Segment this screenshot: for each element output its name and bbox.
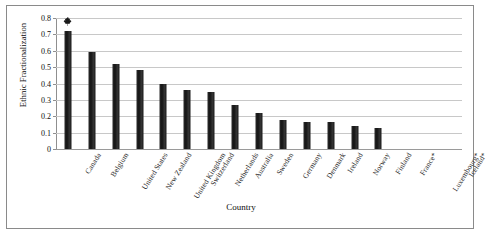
y-axis-tick-label: 0.6: [41, 46, 51, 55]
bar-slot: [366, 18, 390, 149]
bar-slot: [152, 18, 176, 149]
bar-slot: [390, 18, 414, 149]
bar[interactable]: [88, 52, 95, 149]
bar-slot: [56, 18, 80, 149]
gridline: [56, 149, 462, 150]
x-axis-label: Germany: [300, 151, 323, 180]
bar[interactable]: [208, 92, 215, 149]
bar-slot: [271, 18, 295, 149]
bar[interactable]: [232, 105, 239, 149]
bar-slot: [414, 18, 438, 149]
y-axis-tick-label: 0: [47, 145, 51, 154]
x-axis-title: Country: [7, 202, 475, 212]
bar[interactable]: [184, 90, 191, 149]
bar-slot: [128, 18, 152, 149]
y-axis-tick-label: 0.8: [41, 14, 51, 23]
bar-slot: [343, 18, 367, 149]
bar[interactable]: [160, 84, 167, 150]
x-axis-label: Denmark: [324, 151, 347, 180]
bar-slot: [104, 18, 128, 149]
bar[interactable]: [375, 128, 382, 149]
bar[interactable]: [351, 126, 358, 149]
y-axis-tick: [53, 149, 56, 150]
y-axis-tick-label: 0.1: [41, 128, 51, 137]
y-axis-tick-label: 0.5: [41, 63, 51, 72]
bar-slot: [295, 18, 319, 149]
bar-slot: [247, 18, 271, 149]
bar[interactable]: [255, 113, 262, 149]
bar-slot: [438, 18, 462, 149]
bar[interactable]: [279, 120, 286, 149]
plot-area: 0.80.70.60.50.40.30.20.10: [56, 18, 462, 149]
x-axis-label: Finland: [394, 151, 414, 176]
maple-leaf-icon: [61, 16, 75, 30]
bar[interactable]: [303, 122, 310, 149]
y-axis-title: Ethnic Fractionalization: [18, 5, 28, 125]
x-axis-label: Belgium: [108, 151, 130, 179]
bar[interactable]: [112, 64, 119, 149]
bar-chart: Ethnic Fractionalization 0.80.70.60.50.4…: [7, 6, 475, 230]
bar-slot: [319, 18, 343, 149]
bar-slot: [223, 18, 247, 149]
bar[interactable]: [64, 31, 71, 149]
bar-slot: [175, 18, 199, 149]
bar[interactable]: [136, 70, 143, 149]
y-axis-tick-label: 0.3: [41, 95, 51, 104]
y-axis-tick-label: 0.2: [41, 112, 51, 121]
x-axis-label: Norway: [370, 151, 391, 177]
bar-slot: [199, 18, 223, 149]
figure-frame: Ethnic Fractionalization 0.80.70.60.50.4…: [6, 5, 474, 229]
x-axis-label: Ireland: [345, 151, 364, 175]
bars-group: [56, 18, 462, 149]
y-axis-tick-label: 0.4: [41, 79, 51, 88]
y-axis-tick-label: 0.7: [41, 30, 51, 39]
x-axis-label: Canada: [83, 151, 103, 176]
bar-slot: [80, 18, 104, 149]
bar[interactable]: [327, 122, 334, 149]
x-axis-label: France*: [418, 151, 439, 177]
x-axis-label: Sweden: [275, 151, 296, 177]
